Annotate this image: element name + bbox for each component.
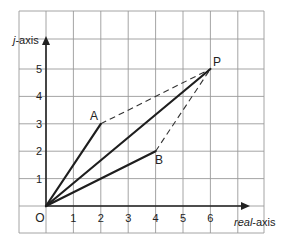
x-axis-label: real-axis <box>234 216 276 228</box>
origin-label: O <box>35 211 44 225</box>
x-axis-label-italic: real <box>234 216 253 228</box>
real-axis-arrow-icon <box>241 202 250 210</box>
y-tick-3: 3 <box>36 118 42 130</box>
point-p-label: P <box>213 55 221 69</box>
point-b-label: B <box>155 153 163 167</box>
y-axis-label-rest: -axis <box>15 34 39 46</box>
x-tick-4: 4 <box>153 212 159 224</box>
point-a-label: A <box>90 109 98 123</box>
y-tick-1: 1 <box>36 173 42 185</box>
x-axis-label-rest: -axis <box>252 216 276 228</box>
x-tick-1: 1 <box>70 212 76 224</box>
x-tick-2: 2 <box>98 212 104 224</box>
argand-diagram: 1 2 3 4 5 6 1 2 3 4 5 O real-axis j-axis… <box>0 0 282 250</box>
y-tick-2: 2 <box>36 145 42 157</box>
x-tick-6: 6 <box>207 212 213 224</box>
x-tick-3: 3 <box>125 212 131 224</box>
imaginary-axis-arrow-icon <box>42 36 50 45</box>
y-axis-label: j-axis <box>11 34 39 46</box>
y-tick-5: 5 <box>36 63 42 75</box>
y-tick-4: 4 <box>36 90 42 102</box>
grid <box>19 11 264 233</box>
x-tick-5: 5 <box>180 212 186 224</box>
